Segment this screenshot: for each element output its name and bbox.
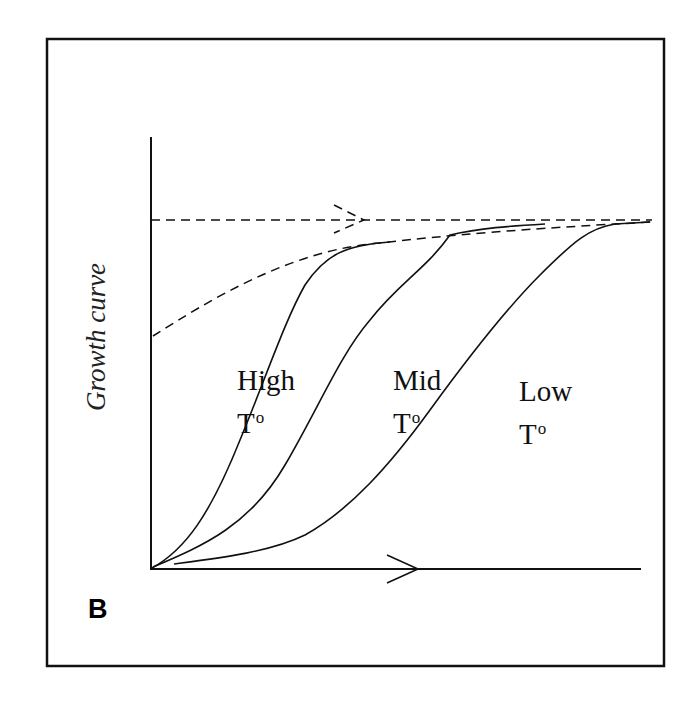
high-label-line2: To bbox=[237, 399, 295, 442]
mid-temperature-curve bbox=[153, 224, 545, 567]
plateau-arrow-icon bbox=[334, 205, 364, 233]
low-label-line2: To bbox=[519, 410, 572, 453]
y-axis-label: Growth curve bbox=[81, 263, 112, 411]
mid-temperature-label: Mid To bbox=[393, 361, 441, 442]
envelope-dashed-curve bbox=[153, 222, 652, 336]
growth-curve-figure: Growth curve High To Mid To Low To B bbox=[0, 0, 692, 705]
mid-label-line2: To bbox=[393, 399, 441, 442]
low-temperature-label: Low To bbox=[519, 372, 572, 453]
high-label-line1: High bbox=[237, 361, 295, 399]
low-label-line1: Low bbox=[519, 372, 572, 410]
mid-label-line1: Mid bbox=[393, 361, 441, 399]
high-temperature-label: High To bbox=[237, 361, 295, 442]
figure-frame bbox=[47, 39, 664, 666]
panel-letter: B bbox=[88, 594, 108, 625]
